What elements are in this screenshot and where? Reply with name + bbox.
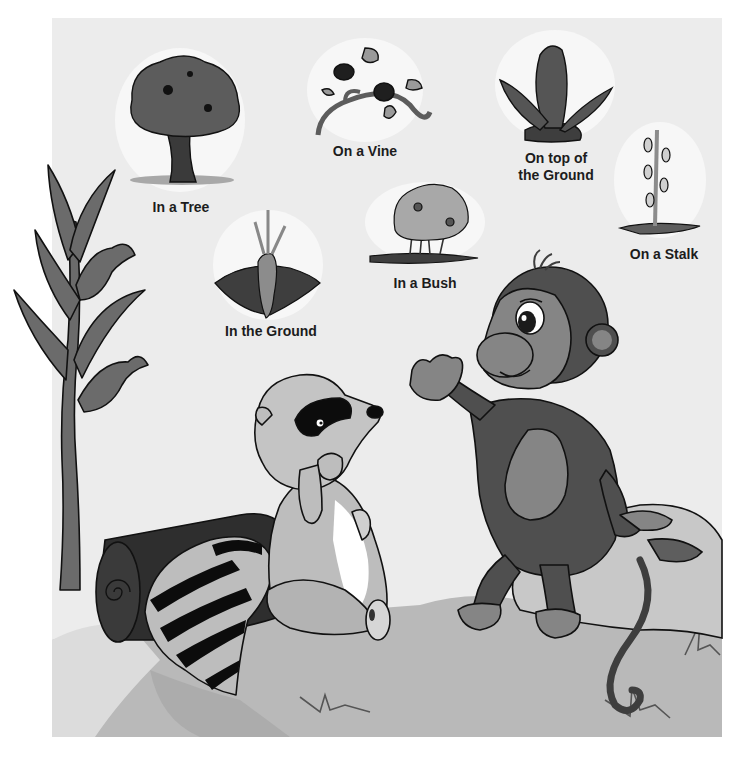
- vignette-tree-icon: [115, 48, 245, 192]
- label-on-a-stalk: On a Stalk: [630, 246, 698, 263]
- label-line-1: On top of: [518, 150, 593, 167]
- vignette-stalk-icon: [614, 122, 706, 238]
- illustration-scene: [0, 0, 745, 758]
- label-on-a-vine: On a Vine: [333, 143, 397, 160]
- label-line-2: the Ground: [518, 167, 593, 184]
- label-in-a-tree: In a Tree: [153, 199, 210, 216]
- label-in-a-bush: In a Bush: [393, 275, 456, 292]
- label-on-top-of-the-ground: On top of the Ground: [518, 150, 593, 184]
- label-in-the-ground: In the Ground: [225, 323, 317, 340]
- vignette-ground-carrot-icon: [213, 210, 323, 320]
